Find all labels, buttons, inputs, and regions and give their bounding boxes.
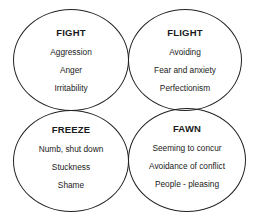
fawn-item: Seeming to concur: [152, 139, 221, 157]
freeze-item: Numb, shut down: [39, 140, 104, 158]
fight-item: Anger: [60, 61, 82, 79]
flight-item: Fear and anxiety: [154, 61, 216, 79]
fawn-item: People - pleasing: [155, 175, 219, 193]
fight-item: Irritability: [54, 79, 87, 97]
freeze-item: Stuckness: [52, 158, 90, 176]
freeze-item: Shame: [58, 176, 84, 194]
fight-title: FIGHT: [56, 27, 86, 38]
flight-title: FLIGHT: [167, 27, 203, 38]
freeze-title: FREEZE: [52, 124, 91, 135]
freeze-ellipse: FREEZE Numb, shut down Stuckness Shame: [13, 110, 129, 212]
flight-item: Avoiding: [169, 43, 201, 61]
fight-ellipse: FIGHT Aggression Anger Irritability: [13, 9, 129, 111]
flight-item: Perfectionism: [160, 79, 210, 97]
fight-item: Aggression: [50, 43, 92, 61]
fawn-item: Avoidance of conflict: [149, 157, 225, 175]
fawn-title: FAWN: [173, 123, 201, 134]
fawn-ellipse: FAWN Seeming to concur Avoidance of conf…: [128, 108, 246, 212]
flight-ellipse: FLIGHT Avoiding Fear and anxiety Perfect…: [128, 9, 242, 111]
